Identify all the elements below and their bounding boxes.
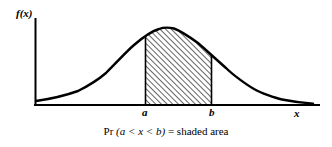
shaded-area-hatch (145, 20, 212, 105)
lower-bound-label: a (142, 107, 148, 118)
x-axis-label: x (294, 108, 300, 119)
figure-container: f(x) x a b Pr (a < x < b) = shaded area (0, 0, 332, 147)
y-axis-label: f(x) (16, 8, 33, 19)
caption-prefix: Pr (104, 125, 117, 137)
caption-interval: (a < x < b) (116, 125, 165, 137)
shaded-area-group (145, 20, 212, 105)
figure-caption: Pr (a < x < b) = shaded area (0, 126, 332, 137)
upper-bound-label: b (209, 107, 215, 118)
caption-suffix: = shaded area (165, 125, 228, 137)
